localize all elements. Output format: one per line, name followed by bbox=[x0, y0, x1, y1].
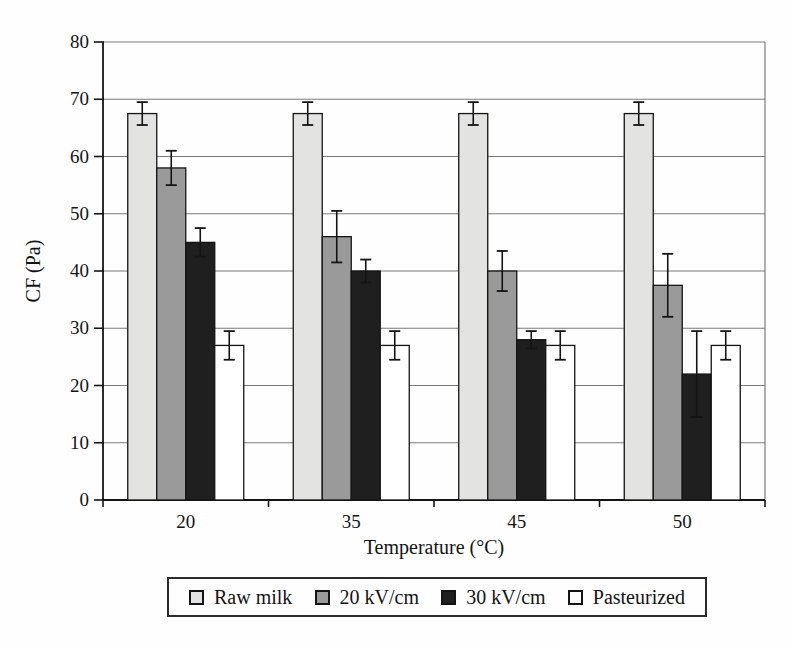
x-tick-label: 35 bbox=[342, 511, 361, 532]
x-axis-title: Temperature (°C) bbox=[364, 536, 504, 559]
bar-chart: 0102030405060708020354550Temperature (°C… bbox=[0, 0, 793, 646]
x-tick-label: 20 bbox=[176, 511, 195, 532]
bar bbox=[322, 237, 351, 500]
legend-label: Pasteurized bbox=[593, 586, 685, 609]
y-axis-title: CF (Pa) bbox=[22, 240, 45, 303]
bar bbox=[488, 271, 517, 500]
bar bbox=[186, 242, 215, 500]
30kv-swatch-icon bbox=[441, 590, 456, 605]
y-tick-label: 30 bbox=[70, 317, 89, 338]
raw-milk-swatch-icon bbox=[189, 590, 204, 605]
y-tick-label: 70 bbox=[70, 88, 89, 109]
legend-entry-30kv: 30 kV/cm bbox=[441, 586, 545, 609]
y-tick-label: 10 bbox=[70, 432, 89, 453]
bar-chart-figure: 0102030405060708020354550Temperature (°C… bbox=[0, 0, 793, 646]
legend-label: 30 kV/cm bbox=[466, 586, 545, 609]
bar bbox=[128, 114, 157, 500]
bar bbox=[459, 114, 488, 500]
x-tick-label: 45 bbox=[507, 511, 526, 532]
pasteurized-swatch-icon bbox=[568, 590, 583, 605]
20kv-swatch-icon bbox=[315, 590, 330, 605]
y-tick-label: 20 bbox=[70, 375, 89, 396]
legend-entry-20kv: 20 kV/cm bbox=[315, 586, 419, 609]
y-tick-label: 50 bbox=[70, 203, 89, 224]
x-tick-label: 50 bbox=[673, 511, 692, 532]
bar bbox=[517, 340, 546, 500]
chart-legend: Raw milk 20 kV/cm 30 kV/cm Pasteurized bbox=[167, 577, 707, 617]
legend-label: Raw milk bbox=[214, 586, 292, 609]
bar bbox=[157, 168, 186, 500]
bar bbox=[293, 114, 322, 500]
bar bbox=[380, 345, 409, 500]
bar bbox=[624, 114, 653, 500]
legend-label: 20 kV/cm bbox=[340, 586, 419, 609]
legend-entry-raw-milk: Raw milk bbox=[189, 586, 292, 609]
y-tick-label: 0 bbox=[80, 489, 90, 510]
y-tick-label: 60 bbox=[70, 146, 89, 167]
y-tick-label: 40 bbox=[70, 260, 89, 281]
bar bbox=[711, 345, 740, 500]
bar bbox=[215, 345, 244, 500]
legend-entry-pasteurized: Pasteurized bbox=[568, 586, 685, 609]
bar bbox=[546, 345, 575, 500]
y-tick-label: 80 bbox=[70, 31, 89, 52]
bar bbox=[351, 271, 380, 500]
